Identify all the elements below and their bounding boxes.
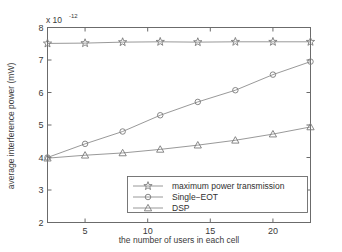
x-axis-label: the number of users in each cell [119, 235, 240, 245]
data-series-layer [43, 37, 314, 161]
y-tick-label: 7 [38, 55, 43, 65]
y-tick-label: 6 [38, 88, 43, 98]
y-axis-label: average interference power (mW) [6, 63, 16, 190]
series-2 [45, 59, 314, 160]
y-axis-exponent-base: x 10 [46, 15, 62, 25]
y-tick-label: 8 [38, 23, 43, 33]
legend-label: DSP [172, 203, 190, 213]
legend-label: maximum power transmission [172, 181, 285, 191]
x-tick-label: 5 [83, 226, 88, 236]
series-1 [43, 37, 314, 46]
y-tick-label: 3 [38, 185, 43, 195]
y-tick-label: 4 [38, 153, 43, 163]
y-tick-label: 5 [38, 120, 43, 130]
x-tick-label: 20 [268, 226, 278, 236]
x-tick-label: 15 [205, 226, 215, 236]
y-axis-exponent-power: -12 [69, 13, 78, 19]
chart-svg: average interference power (mW) x 10 -12… [0, 0, 342, 252]
legend: maximum power transmissionSingle−EOTDSP [128, 177, 308, 214]
x-tick-label: 10 [143, 226, 153, 236]
legend-label: Single−EOT [172, 192, 218, 202]
y-tick-label: 2 [38, 218, 43, 228]
series-3 [44, 123, 314, 161]
figure-canvas: average interference power (mW) x 10 -12… [0, 0, 342, 252]
series-line [48, 127, 311, 158]
y-axis-exponent: x 10 -12 [46, 13, 78, 25]
